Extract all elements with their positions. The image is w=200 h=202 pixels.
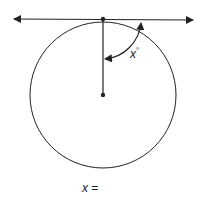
- angle-label: x°: [130, 46, 139, 61]
- answer-prompt: x =: [82, 181, 98, 195]
- center-point: [101, 93, 105, 97]
- answer-variable: x: [82, 181, 88, 195]
- degree-symbol: °: [136, 46, 139, 55]
- point-of-tangency: [101, 17, 105, 21]
- circle-diagram: [0, 0, 200, 202]
- equals-sign: =: [91, 181, 98, 195]
